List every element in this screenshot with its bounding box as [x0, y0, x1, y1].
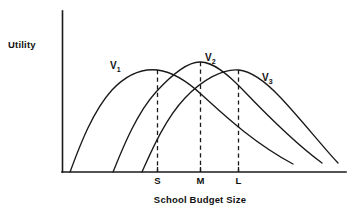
- x-tick-label-l: L: [236, 175, 242, 186]
- x-tick-label-s: S: [154, 175, 160, 186]
- utility-vs-school-budget-chart: Utility S M L School Budget Size V1 V2 V…: [0, 0, 353, 209]
- curve-label-v2-subscript: 2: [212, 58, 216, 65]
- chart-background: [0, 0, 353, 209]
- curve-label-v1-subscript: 1: [117, 66, 121, 73]
- y-axis-label: Utility: [8, 39, 36, 50]
- curve-label-v3-subscript: 3: [269, 78, 273, 85]
- x-axis-label: School Budget Size: [154, 194, 246, 205]
- x-tick-label-m: M: [197, 175, 205, 186]
